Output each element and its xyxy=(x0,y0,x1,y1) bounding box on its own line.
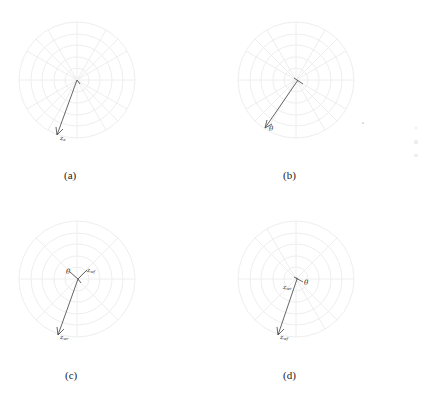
label-theta: θ xyxy=(269,125,274,133)
panel-a: ze (a) xyxy=(0,0,219,198)
label-z-wf: zwf xyxy=(279,333,290,341)
polar-grid xyxy=(238,22,354,138)
label-z-e: ze xyxy=(59,134,66,142)
stray-mark xyxy=(414,140,418,144)
label-z-wr: zwr xyxy=(59,333,70,341)
panel-c: zwr θ zwf (c) xyxy=(0,199,219,397)
caption-b: (b) xyxy=(283,169,296,181)
label-z-wf: zwf xyxy=(86,266,97,274)
caption-a: (a) xyxy=(64,169,76,181)
caption-c: (c) xyxy=(65,369,77,381)
caption-d: (d) xyxy=(283,369,296,381)
polar-diagram-c: zwr θ zwf xyxy=(0,199,219,397)
polar-grid xyxy=(19,221,135,337)
arrow-z-wr xyxy=(57,279,78,335)
polar-diagram-a: ze xyxy=(0,0,219,198)
arrow-z-wf xyxy=(78,270,87,279)
panel-b: θ (b) xyxy=(219,0,438,198)
stray-mark xyxy=(362,122,364,124)
polar-grid xyxy=(238,221,354,337)
panel-d: zwf θ zwr (d) xyxy=(219,199,438,397)
polar-diagram-d: zwf θ zwr xyxy=(219,199,438,397)
polar-diagram-b: θ xyxy=(219,0,438,198)
stray-mark xyxy=(414,154,418,157)
stray-mark xyxy=(415,127,417,129)
